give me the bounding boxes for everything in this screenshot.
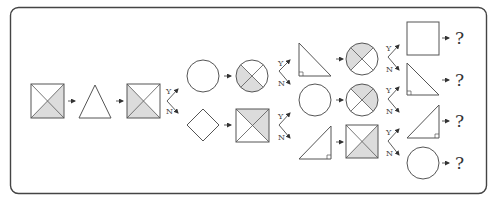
- no-label: N: [278, 133, 285, 142]
- circle-x-shaded-top-left: [346, 43, 378, 75]
- square-x-shaded-left-bottom: [127, 84, 160, 118]
- circle: [187, 60, 219, 92]
- yes-label: Y: [385, 128, 392, 137]
- yes-label: Y: [385, 86, 392, 95]
- yes-label: Y: [165, 87, 172, 96]
- circle-x-shaded-left-bottom: [236, 60, 268, 92]
- yes-no-branch: Y N: [385, 128, 399, 158]
- yes-no-branch: Y N: [385, 44, 399, 74]
- question-mark: ?: [455, 70, 464, 90]
- right-triangle-left: [299, 43, 331, 76]
- square: [407, 22, 439, 55]
- rounded-frame: [11, 8, 238, 194]
- yes-no-branch: Y N: [277, 112, 290, 142]
- question-mark: ?: [455, 153, 464, 173]
- frame-border: [11, 8, 237, 193]
- outer-border: [18, 8, 237, 16]
- yes-label: Y: [385, 44, 392, 53]
- right-triangle-right: [407, 105, 439, 138]
- no-label: N: [386, 149, 393, 158]
- diagram-border: [11, 8, 238, 194]
- panel-outline: [11, 8, 487, 194]
- triangle: [79, 85, 111, 118]
- square-x-shaded-top-right: [236, 109, 269, 142]
- no-label: N: [166, 107, 173, 116]
- yes-label: Y: [277, 112, 284, 121]
- right-triangle-right: [299, 126, 331, 159]
- diamond: [187, 109, 219, 141]
- square-x-shaded-right-bottom: [31, 84, 64, 118]
- right-triangle-left: [407, 63, 439, 95]
- yes-no-branch: Y N: [277, 59, 290, 88]
- no-label: N: [386, 65, 393, 74]
- yes-no-branch: Y N: [385, 86, 399, 116]
- shape-decision-diagram: Y N Y N Y N: [0, 0, 497, 198]
- circle-x-shaded-top-right: [346, 84, 378, 116]
- yes-no-branch: Y N: [165, 87, 178, 116]
- circle: [407, 147, 439, 179]
- yes-label: Y: [277, 59, 284, 68]
- no-label: N: [278, 79, 285, 88]
- question-mark: ?: [455, 28, 464, 48]
- square-x-shaded-right-bottom: [346, 125, 378, 158]
- circle: [299, 84, 331, 116]
- no-label: N: [386, 107, 393, 116]
- question-mark: ?: [455, 111, 464, 131]
